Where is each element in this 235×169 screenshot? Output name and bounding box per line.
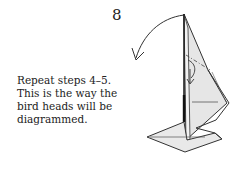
model-body [184,14,229,140]
turn-over-arrow-icon [132,15,184,60]
origami-diagram [0,0,235,169]
model-base [147,122,222,152]
